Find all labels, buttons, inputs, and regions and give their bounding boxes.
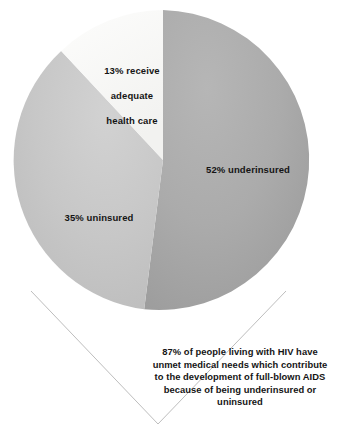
pie-label-adequate-line-2: adequate — [111, 90, 154, 101]
chart-canvas: 13% receive adequate health care 52% und… — [0, 0, 349, 434]
callout-line-1: 87% of people living with HIV have — [133, 346, 347, 359]
pie-label-underinsured: 52% underinsured — [186, 164, 310, 177]
callout-line-5: uninsured — [133, 396, 347, 409]
pie-label-adequate-health-care: 13% receive adequate health care — [86, 52, 178, 127]
callout-annotation: 87% of people living with HIV have unmet… — [133, 346, 347, 409]
callout-line-4: because of being underinsured or — [133, 384, 347, 397]
pie-label-adequate-line-3: health care — [106, 115, 157, 126]
callout-line-2: unmet medical needs which contribute — [133, 359, 347, 372]
pie-label-uninsured: 35% uninsured — [44, 212, 154, 225]
callout-line-3: to the development of full-blown AIDS — [133, 371, 347, 384]
pie-label-adequate-line-1: 13% receive — [104, 65, 160, 76]
